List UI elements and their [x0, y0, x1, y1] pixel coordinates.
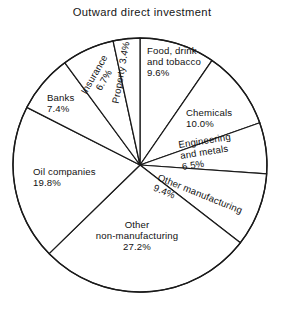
- pie-chart-figure: Outward direct investment Food, drinkand…: [0, 0, 284, 315]
- pie-slice-layer: [13, 38, 267, 292]
- pie-chart-svg: Food, drinkand tobacco9.6%Chemicals10.0%…: [0, 0, 284, 315]
